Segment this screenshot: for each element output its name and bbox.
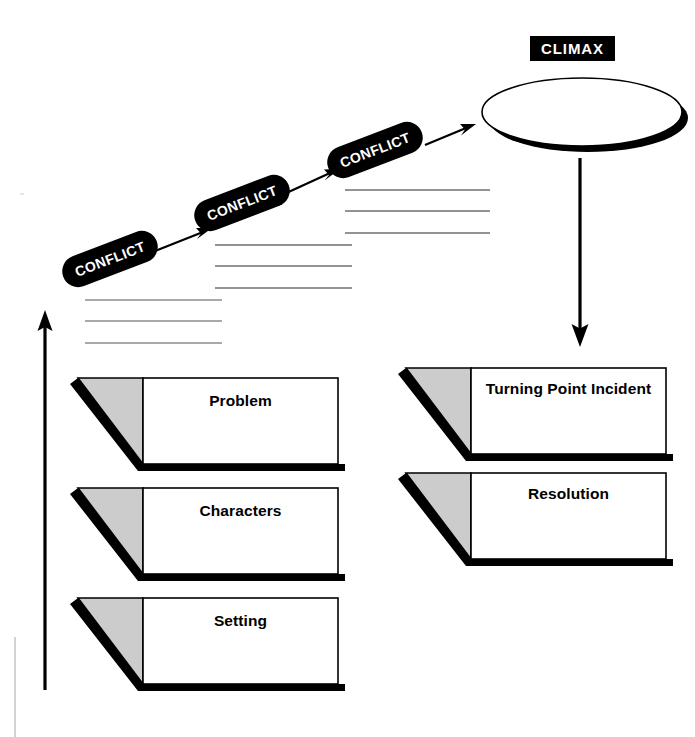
plot-diagram-canvas: CLIMAX CONFLICT CONFLICT CONFLICT Proble… [0,0,695,737]
box-resolution-shape [388,463,673,568]
box-turning-point-incident[interactable]: Turning Point Incident [388,358,673,463]
box-characters-shape [60,478,345,583]
box-problem-label: Problem [143,392,338,410]
arrow-conflict-1-to-2 [150,228,212,253]
arrow-conflict-3-to-climax [425,124,476,145]
box-setting-label: Setting [143,612,338,630]
climax-oval [482,78,688,152]
conflict-1-lines [85,300,222,343]
box-resolution[interactable]: Resolution [388,463,673,568]
climax-label: CLIMAX [530,36,615,61]
box-characters[interactable]: Characters [60,478,345,583]
box-problem[interactable]: Problem [60,368,345,473]
box-setting[interactable]: Setting [60,588,345,693]
box-problem-shape [60,368,345,473]
conflict-2-lines [215,245,352,288]
box-turning-point-incident-label: Turning Point Incident [471,380,666,398]
climax-label-text: CLIMAX [541,40,604,57]
box-turning-point-incident-shape [388,358,673,463]
box-setting-shape [60,588,345,693]
box-characters-label: Characters [143,502,338,520]
conflict-3-lines [345,190,490,233]
box-resolution-label: Resolution [471,485,666,503]
falling-action-arrow [572,158,589,347]
rising-action-arrow [38,310,53,690]
